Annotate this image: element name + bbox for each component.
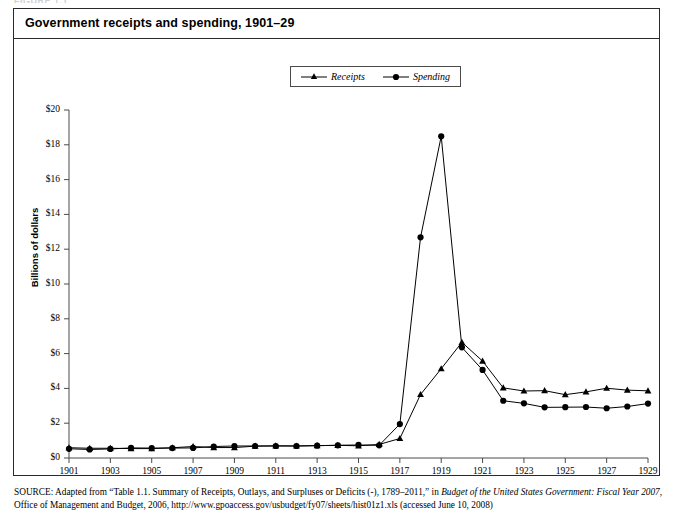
source-label: SOURCE: [14, 487, 53, 497]
y-axis-tick-label: $8 [18, 313, 60, 323]
circle-marker-icon [417, 234, 423, 240]
circle-marker-icon [624, 403, 630, 409]
triangle-marker-icon [603, 385, 610, 391]
x-axis-tick-label: 1903 [90, 466, 130, 476]
circle-marker-icon [169, 445, 175, 451]
circle-marker-icon [66, 446, 72, 452]
x-axis-tick-label: 1913 [297, 466, 337, 476]
y-axis-tick-label: $18 [18, 139, 60, 149]
x-axis-tick-label: 1923 [504, 466, 544, 476]
circle-marker-icon [335, 442, 341, 448]
y-axis-tick-label: $10 [18, 278, 60, 288]
circle-marker-icon [231, 443, 237, 449]
circle-marker-icon [562, 404, 568, 410]
series-line [69, 136, 648, 449]
circle-marker-icon [500, 398, 506, 404]
x-axis-tick-label: 1915 [339, 466, 379, 476]
x-axis-tick-label: 1917 [380, 466, 420, 476]
x-axis-tick-label: 1901 [49, 466, 89, 476]
source-text-1: Adapted from “Table 1.1. Summary of Rece… [53, 487, 441, 497]
triangle-marker-icon [396, 435, 403, 441]
circle-marker-icon [211, 443, 217, 449]
x-axis-tick-label: 1905 [132, 466, 172, 476]
circle-marker-icon [107, 446, 113, 452]
circle-marker-icon [128, 445, 134, 451]
circle-marker-icon [645, 400, 651, 406]
circle-marker-icon [459, 344, 465, 350]
figure-page: FIGURE 1.1 Government receipts and spend… [0, 0, 673, 532]
chart-plot-area [0, 0, 673, 532]
x-axis-tick-label: 1925 [545, 466, 585, 476]
circle-marker-icon [376, 442, 382, 448]
y-axis-tick-label: $20 [18, 104, 60, 114]
x-axis-tick-label: 1921 [463, 466, 503, 476]
x-axis-tick-label: 1929 [628, 466, 668, 476]
source-italic-1: Budget of the United States Government: … [441, 487, 660, 497]
y-axis-tick-label: $14 [18, 208, 60, 218]
circle-marker-icon [252, 443, 258, 449]
circle-marker-icon [521, 400, 527, 406]
series-line [69, 342, 648, 448]
x-axis-tick-label: 1927 [587, 466, 627, 476]
x-axis-tick-label: 1911 [256, 466, 296, 476]
source-note: SOURCE: Adapted from “Table 1.1. Summary… [14, 486, 664, 511]
y-axis-tick-label: $16 [18, 174, 60, 184]
series-spending [66, 133, 651, 452]
circle-marker-icon [293, 443, 299, 449]
circle-marker-icon [190, 445, 196, 451]
circle-marker-icon [355, 442, 361, 448]
x-axis-tick-label: 1907 [173, 466, 213, 476]
circle-marker-icon [542, 404, 548, 410]
y-axis-tick-label: $6 [18, 348, 60, 358]
y-axis-tick-label: $0 [18, 452, 60, 462]
circle-marker-icon [438, 133, 444, 139]
circle-marker-icon [149, 445, 155, 451]
triangle-marker-icon [541, 387, 548, 393]
circle-marker-icon [87, 446, 93, 452]
circle-marker-icon [273, 443, 279, 449]
x-axis-tick-label: 1919 [421, 466, 461, 476]
y-axis-tick-label: $12 [18, 243, 60, 253]
circle-marker-icon [314, 443, 320, 449]
circle-marker-icon [583, 404, 589, 410]
circle-marker-icon [604, 405, 610, 411]
circle-marker-icon [397, 421, 403, 427]
y-axis-tick-label: $4 [18, 382, 60, 392]
series-receipts [66, 339, 652, 452]
circle-marker-icon [479, 367, 485, 373]
y-axis-tick-label: $2 [18, 417, 60, 427]
x-axis-tick-label: 1909 [214, 466, 254, 476]
